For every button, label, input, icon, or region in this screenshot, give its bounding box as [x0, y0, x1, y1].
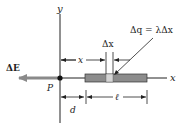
point-p: [57, 75, 62, 80]
l-label: ℓ: [115, 92, 119, 102]
x-dim-label: x: [78, 55, 83, 65]
d-label: d: [70, 105, 76, 115]
dx-label: Δx: [102, 39, 114, 49]
dq-leader: [115, 38, 153, 74]
delta-e-label: ΔE: [6, 63, 20, 73]
y-axis-label: y: [56, 3, 63, 14]
charged-rod-diagram: y x ΔE P x Δx Δq = λΔx d ℓ: [0, 0, 185, 136]
charged-rod: [85, 74, 147, 82]
x-axis-label: x: [170, 72, 176, 83]
point-p-label: P: [46, 83, 54, 93]
dq-label: Δq = λΔx: [130, 25, 173, 35]
charge-element: [106, 74, 113, 82]
